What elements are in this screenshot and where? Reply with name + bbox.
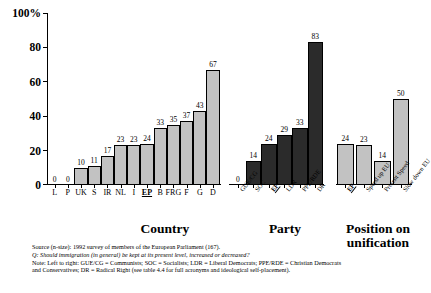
y-tick-label-0: 0 — [0, 180, 41, 192]
bar — [292, 128, 308, 185]
bar-value-label: 33 — [288, 119, 312, 127]
bar — [337, 144, 354, 185]
bar — [127, 145, 140, 185]
y-tick-label-80: 80 — [0, 42, 41, 54]
bar-value-label: 37 — [176, 112, 197, 120]
footnote-note-line-1: Note: Left to right: GUE/CG = Communists… — [32, 259, 424, 267]
bar — [308, 42, 324, 185]
y-tick-label-40: 40 — [0, 111, 41, 123]
y-tick-label-20: 20 — [0, 146, 41, 158]
bar-value-label: 24 — [136, 135, 157, 143]
bar — [261, 144, 277, 185]
bar — [140, 144, 153, 185]
footnote-source: Source (n-size): 1992 survey of members … — [32, 243, 424, 251]
bar-value-label: 50 — [389, 90, 414, 98]
y-tick-label-60: 60 — [0, 77, 41, 89]
panel-title-country: Country — [105, 222, 225, 236]
y-tick-label-100: 100% — [0, 8, 41, 20]
bar-value-label: 17 — [97, 147, 118, 155]
panel-title-party: Party — [240, 222, 330, 236]
footnotes: Source (n-size): 1992 survey of members … — [32, 243, 424, 274]
bar-value-label: 14 — [242, 152, 266, 160]
bar-value-label: 43 — [189, 102, 210, 110]
bar-value-label: 67 — [202, 61, 223, 69]
bar — [88, 166, 101, 185]
bar-value-label: 14 — [370, 152, 395, 160]
x-axis-tick-label: D — [202, 189, 223, 197]
bar-value-label: 23 — [352, 136, 377, 144]
footnote-note-line-2: and Conservatives; DR = Radical Right (s… — [32, 266, 424, 274]
bar — [206, 70, 219, 185]
bar — [193, 111, 206, 185]
y-axis-labels: 100% 80 60 40 20 0 — [0, 0, 41, 200]
bar — [167, 125, 180, 185]
bar-value-label: 24 — [257, 135, 281, 143]
bar — [277, 135, 293, 185]
footnote-question: Q: Should immigration (in general) be ke… — [32, 251, 424, 259]
bar-value-label: 11 — [84, 157, 105, 165]
bar-value-label: 0 — [57, 176, 78, 184]
bar-value-label: 29 — [273, 126, 297, 134]
bar-chart: 100% 80 60 40 20 0 0L0P10UK11S17IR23NL23… — [0, 0, 431, 293]
bar — [180, 121, 193, 185]
bar-value-label: 83 — [304, 33, 328, 41]
